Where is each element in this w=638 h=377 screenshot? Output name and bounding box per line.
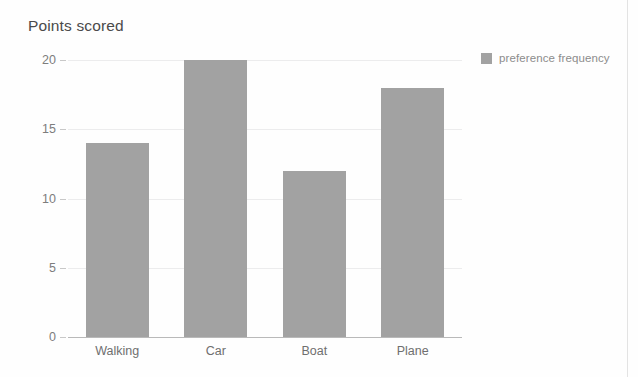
chart-legend: preference frequency (481, 52, 610, 64)
y-tick-mark (60, 199, 66, 200)
y-tick-label: 0 (49, 330, 56, 344)
bar-series (68, 60, 462, 337)
bar[interactable] (184, 60, 247, 337)
y-tick-label: 5 (49, 261, 56, 275)
x-axis: WalkingCarBoatPlane (68, 344, 462, 364)
bar-slot (184, 60, 247, 337)
bar-slot (381, 60, 444, 337)
y-tick-mark (60, 129, 66, 130)
y-tick-mark (60, 60, 66, 61)
chart-title: Points scored (28, 17, 124, 35)
y-tick-mark (60, 337, 66, 338)
legend-label: preference frequency (499, 52, 610, 64)
bar[interactable] (86, 143, 149, 337)
y-tick-label: 10 (42, 192, 56, 206)
y-tick-label: 20 (42, 53, 56, 67)
chart-screenshot: Points scored 05101520 WalkingCarBoatPla… (0, 0, 638, 377)
y-axis: 05101520 (0, 60, 56, 337)
bar[interactable] (283, 171, 346, 337)
bar-slot (86, 60, 149, 337)
x-tick-label: Plane (397, 344, 429, 358)
bar-slot (283, 60, 346, 337)
x-tick-label: Car (206, 344, 226, 358)
x-axis-line (68, 337, 462, 338)
y-tick-mark (60, 268, 66, 269)
page-border (627, 0, 628, 377)
legend-swatch-icon (481, 53, 492, 64)
bar[interactable] (381, 88, 444, 337)
x-tick-label: Walking (95, 344, 139, 358)
y-tick-label: 15 (42, 122, 56, 136)
x-tick-label: Boat (301, 344, 327, 358)
